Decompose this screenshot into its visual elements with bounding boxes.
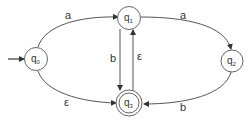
edge-q2-q3 — [144, 72, 231, 104]
edge-label-q2-q3: b — [180, 101, 186, 113]
edge-label-q3-q1: ε — [137, 50, 142, 62]
edge-label-q1-q2: a — [180, 9, 187, 21]
edge-q1-q2 — [141, 17, 231, 49]
edge-label-q0-q1: a — [65, 9, 72, 21]
state-q3-accept: q3 — [116, 90, 142, 116]
edge-label-q0-q3: ε — [64, 96, 69, 108]
state-q2: q2 — [221, 50, 243, 72]
edge-q0-q1 — [38, 17, 118, 47]
edge-q0-q3 — [38, 71, 116, 103]
state-q0: q0 — [25, 48, 48, 71]
edge-label-q1-q3: b — [110, 52, 116, 64]
state-q1: q1 — [118, 7, 141, 30]
automaton-diagram: a ε a b b ε q0 q1 q2 q3 — [0, 0, 250, 128]
